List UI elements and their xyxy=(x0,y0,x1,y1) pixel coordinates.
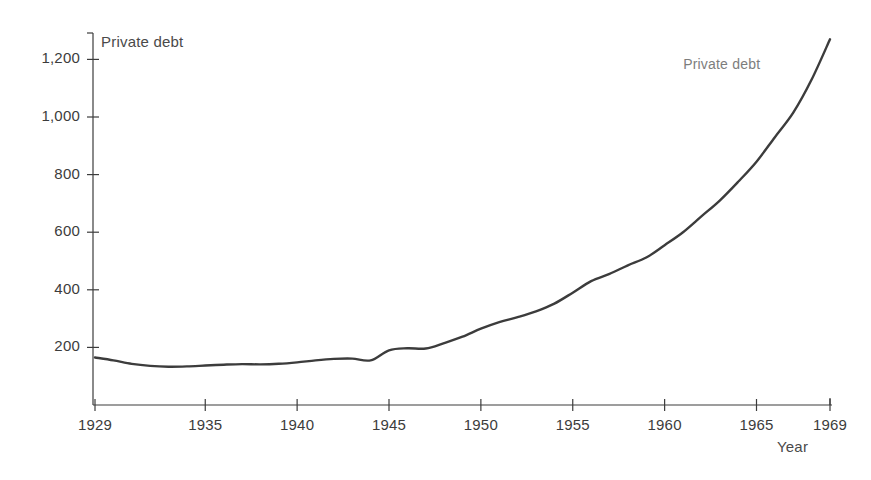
y-tick-label: 600 xyxy=(0,222,80,239)
chart-figure: 2004006008001,0001,200 19291935194019451… xyxy=(0,0,871,480)
x-tick-label: 1935 xyxy=(165,416,245,433)
series-annotation-private-debt: Private debt xyxy=(683,56,760,72)
y-tick-label: 200 xyxy=(0,337,80,354)
x-tick-label: 1969 xyxy=(790,416,870,433)
y-tick-label: 400 xyxy=(0,280,80,297)
x-tick-label: 1929 xyxy=(55,416,135,433)
x-tick-label: 1965 xyxy=(717,416,797,433)
y-tick-label: 1,000 xyxy=(0,107,80,124)
x-tick-label: 1960 xyxy=(625,416,705,433)
x-tick-label: 1955 xyxy=(533,416,613,433)
x-tick-label: 1945 xyxy=(349,416,429,433)
y-tick-label: 1,200 xyxy=(0,49,80,66)
y-tick-label: 800 xyxy=(0,165,80,182)
x-tick-label: 1940 xyxy=(257,416,337,433)
private-debt-line xyxy=(95,39,830,366)
x-tick-label: 1950 xyxy=(441,416,521,433)
x-axis-caption: Year xyxy=(777,438,808,455)
y-axis-caption: Private debt xyxy=(101,33,183,50)
